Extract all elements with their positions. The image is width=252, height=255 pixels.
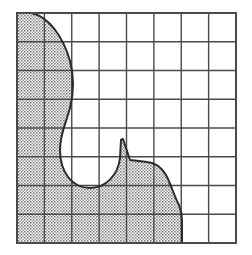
figure-root xyxy=(0,0,252,255)
grid-region-figure xyxy=(0,0,252,255)
